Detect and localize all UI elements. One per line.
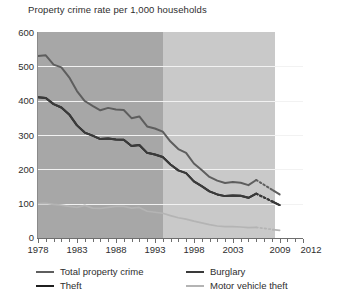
x-tick-label: 1988	[105, 244, 126, 255]
x-tick	[303, 239, 304, 243]
y-tick-label: 400	[4, 95, 34, 106]
x-tick	[147, 239, 148, 242]
x-tick	[38, 239, 39, 243]
legend-swatch-icon	[36, 271, 54, 273]
x-tick	[100, 239, 101, 242]
x-tick	[178, 239, 179, 242]
series-line	[273, 190, 280, 194]
chart-figure: Property crime rate per 1,000 households…	[0, 0, 338, 306]
legend-swatch-icon	[186, 285, 204, 287]
y-axis-labels: 600 500 400 300 200 100 0	[0, 0, 34, 306]
x-tick	[132, 239, 133, 242]
x-tick	[186, 239, 187, 242]
legend-swatch-icon	[36, 285, 54, 288]
x-tick	[272, 239, 273, 242]
x-tick	[295, 239, 296, 242]
x-tick	[264, 239, 265, 242]
series-line	[256, 180, 273, 190]
x-tick	[139, 239, 140, 242]
x-tick	[256, 239, 257, 242]
x-tick	[210, 239, 211, 242]
y-tick-label: 200	[4, 164, 34, 175]
x-tick	[287, 239, 288, 242]
x-tick	[85, 239, 86, 242]
legend-item-theft[interactable]: Theft	[36, 280, 186, 292]
plot-area	[38, 32, 303, 238]
x-tick-label: 2012	[300, 244, 321, 255]
legend-label: Total property crime	[60, 266, 143, 278]
legend-label: Burglary	[210, 266, 245, 278]
x-tick	[108, 239, 109, 242]
legend-label: Theft	[60, 280, 82, 292]
y-tick-label: 500	[4, 61, 34, 72]
x-tick	[93, 239, 94, 242]
chart-title: Property crime rate per 1,000 households	[28, 4, 207, 15]
x-tick-label: 2003	[222, 244, 243, 255]
x-tick	[61, 239, 62, 242]
x-tick	[280, 239, 281, 243]
y-tick-label: 300	[4, 130, 34, 141]
series-line	[38, 203, 256, 227]
series-line	[256, 194, 273, 202]
legend-label: Motor vehicle theft	[210, 280, 288, 292]
y-axis-line	[37, 32, 38, 239]
x-tick	[202, 239, 203, 242]
x-tick-label: 1983	[66, 244, 87, 255]
series-line	[273, 230, 280, 231]
x-tick	[116, 239, 117, 243]
x-tick	[46, 239, 47, 242]
x-tick	[233, 239, 234, 243]
series-line	[273, 202, 280, 205]
legend-item-motor-vehicle-theft[interactable]: Motor vehicle theft	[186, 280, 336, 292]
legend-item-burglary[interactable]: Burglary	[186, 266, 336, 278]
x-tick	[163, 239, 164, 242]
series-lines	[38, 32, 303, 238]
legend-item-total-property-crime[interactable]: Total property crime	[36, 266, 186, 278]
y-tick-label: 600	[4, 27, 34, 38]
x-tick	[194, 239, 195, 243]
x-tick-label: 1978	[27, 244, 48, 255]
x-tick-label: 2009	[269, 244, 290, 255]
x-tick	[155, 239, 156, 243]
x-tick	[248, 239, 249, 242]
series-line	[256, 227, 273, 229]
legend-swatch-icon	[186, 271, 204, 273]
x-tick	[217, 239, 218, 242]
series-line	[38, 55, 256, 185]
x-tick	[77, 239, 78, 243]
x-tick	[69, 239, 70, 242]
y-tick-label: 0	[4, 232, 34, 243]
chart-legend: Total property crime Burglary Theft Moto…	[36, 266, 336, 294]
x-tick	[124, 239, 125, 242]
x-tick	[54, 239, 55, 242]
y-tick-label: 100	[4, 198, 34, 209]
legend-row: Total property crime Burglary	[36, 266, 336, 278]
x-tick-label: 1993	[144, 244, 165, 255]
x-tick	[171, 239, 172, 242]
x-tick	[225, 239, 226, 242]
x-tick	[241, 239, 242, 242]
x-tick-label: 1998	[183, 244, 204, 255]
legend-row: Theft Motor vehicle theft	[36, 280, 336, 292]
